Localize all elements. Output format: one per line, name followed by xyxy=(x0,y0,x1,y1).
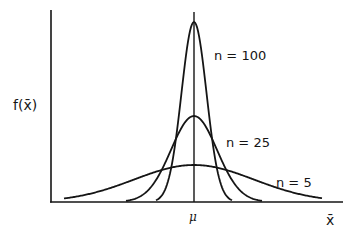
sampling-distribution-chart xyxy=(0,0,354,235)
y-axis-label: f(x̄) xyxy=(13,98,37,112)
mean-tick-label: μ xyxy=(189,211,197,223)
curve-label-n5: n = 5 xyxy=(276,176,312,189)
curve-label-n25: n = 25 xyxy=(226,136,270,149)
curve-label-n100: n = 100 xyxy=(214,49,266,62)
x-axis-label: x̄ xyxy=(326,213,334,227)
